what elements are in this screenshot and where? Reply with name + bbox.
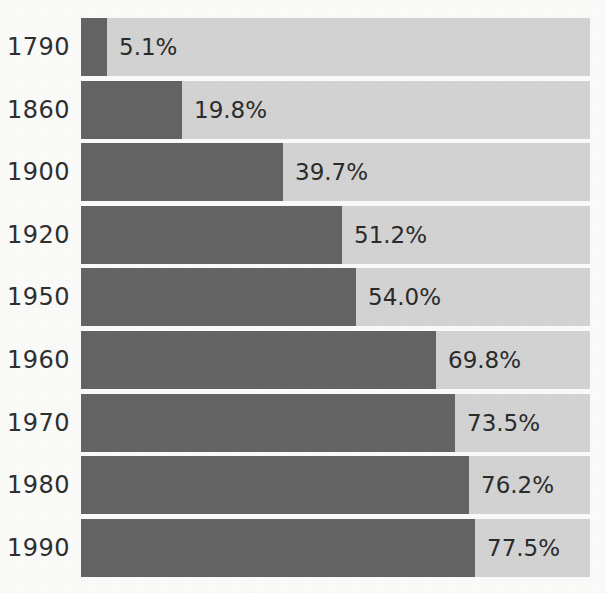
category-label-1950: 1950 <box>0 268 70 326</box>
category-label-1980: 1980 <box>0 456 70 514</box>
bar-fill-1970 <box>81 394 455 452</box>
category-label-1970: 1970 <box>0 394 70 452</box>
value-label-1860: 19.8% <box>194 81 267 139</box>
chart-row: 190039.7% <box>0 143 606 201</box>
chart-row: 199077.5% <box>0 519 606 577</box>
category-label-1920: 1920 <box>0 206 70 264</box>
category-label-1960: 1960 <box>0 331 70 389</box>
bar-fill-1950 <box>81 268 356 326</box>
value-label-1950: 54.0% <box>368 268 441 326</box>
value-label-1990: 77.5% <box>487 519 560 577</box>
value-label-1900: 39.7% <box>295 143 368 201</box>
chart-row: 198076.2% <box>0 456 606 514</box>
bar-fill-1920 <box>81 206 342 264</box>
value-label-1960: 69.8% <box>448 331 521 389</box>
bar-fill-1860 <box>81 81 182 139</box>
chart-row: 186019.8% <box>0 81 606 139</box>
value-label-1970: 73.5% <box>467 394 540 452</box>
chart-row: 195054.0% <box>0 268 606 326</box>
chart-row: 192051.2% <box>0 206 606 264</box>
chart-row: 196069.8% <box>0 331 606 389</box>
bar-track-1860 <box>81 81 590 139</box>
bar-fill-1900 <box>81 143 283 201</box>
bar-fill-1980 <box>81 456 469 514</box>
bar-fill-1990 <box>81 519 475 577</box>
category-label-1860: 1860 <box>0 81 70 139</box>
bar-fill-1790 <box>81 18 107 76</box>
category-label-1790: 1790 <box>0 18 70 76</box>
chart-row: 197073.5% <box>0 394 606 452</box>
category-label-1990: 1990 <box>0 519 70 577</box>
chart-row: 17905.1% <box>0 18 606 76</box>
bar-fill-1960 <box>81 331 436 389</box>
bar-track-1920 <box>81 206 590 264</box>
value-label-1980: 76.2% <box>481 456 554 514</box>
value-label-1920: 51.2% <box>354 206 427 264</box>
bar-track-1950 <box>81 268 590 326</box>
stacked-bar-chart: 17905.1%186019.8%190039.7%192051.2%19505… <box>0 0 606 593</box>
value-label-1790: 5.1% <box>119 18 177 76</box>
category-label-1900: 1900 <box>0 143 70 201</box>
